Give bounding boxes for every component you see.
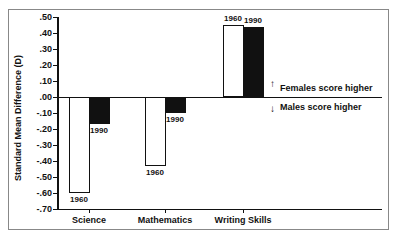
bar-science-1960 [69,97,90,193]
y-tick [53,49,57,50]
y-tick [53,129,57,130]
y-tick [53,145,57,146]
bar-value-label: 1960 [143,168,167,177]
chart-frame [8,9,389,230]
y-tick-label: -.20 [20,124,52,134]
y-tick-label: .50 [20,12,52,22]
bar-value-label: 1990 [87,126,111,135]
y-tick [53,209,57,210]
y-tick [53,17,57,18]
y-tick-label: -.50 [20,172,52,182]
bar-writing-skills-1960 [223,25,244,97]
y-tick-label: .20 [20,60,52,70]
y-tick [53,177,57,178]
x-category-label: Writing Skills [198,215,288,225]
bar-mathematics-1960 [145,97,166,166]
y-tick-label: .40 [20,28,52,38]
y-tick [53,33,57,34]
y-axis [57,17,59,210]
y-tick [53,97,57,98]
y-tick [53,161,57,162]
y-tick [53,193,57,194]
y-tick-label: -.70 [20,204,52,214]
bar-mathematics-1990 [165,97,186,113]
bar-value-label: 1990 [163,115,187,124]
y-tick-label: -.30 [20,140,52,150]
y-tick-label: -.60 [20,188,52,198]
males-annotation: Males score higher [280,102,362,112]
y-tick [53,65,57,66]
y-tick-label: .30 [20,44,52,54]
bar-writing-skills-1990 [243,27,264,97]
y-tick-label: .10 [20,76,52,86]
x-axis [57,209,382,210]
down-arrow-icon: ↓ [270,104,275,114]
females-annotation: Females score higher [280,83,373,93]
bar-value-label: 1960 [67,195,91,204]
x-category-label: Mathematics [120,215,210,225]
x-tick [165,210,166,213]
bar-value-label: 1990 [241,16,265,25]
y-tick-label: .00 [20,92,52,102]
x-tick [89,210,90,213]
y-tick [53,113,57,114]
y-tick-label: -.10 [20,108,52,118]
y-tick-label: -.40 [20,156,52,166]
y-tick [53,81,57,82]
x-tick [243,210,244,213]
up-arrow-icon: ↑ [270,79,275,89]
bar-science-1990 [89,97,110,124]
